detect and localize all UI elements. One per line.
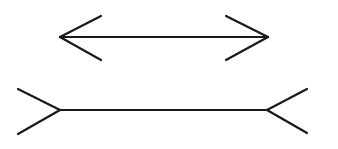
top-figure-arrow-heads <box>60 16 268 60</box>
arrows-outward-line-fin-2 <box>267 89 307 110</box>
arrows-inward-line-fin-0 <box>60 16 101 37</box>
arrows-inward-line-fin-2 <box>226 16 268 37</box>
arrows-inward-line-fin-1 <box>60 37 101 60</box>
arrows-outward-line-fin-3 <box>267 110 307 133</box>
bottom-figure-fins <box>18 89 307 134</box>
arrows-inward-line-fin-3 <box>226 37 268 60</box>
arrows-outward-line-fin-0 <box>18 89 60 110</box>
illusion-svg <box>0 0 338 149</box>
muller-lyer-diagram: Müller-Lyer illusion <box>0 0 338 149</box>
arrows-outward-line-fin-1 <box>18 110 60 134</box>
